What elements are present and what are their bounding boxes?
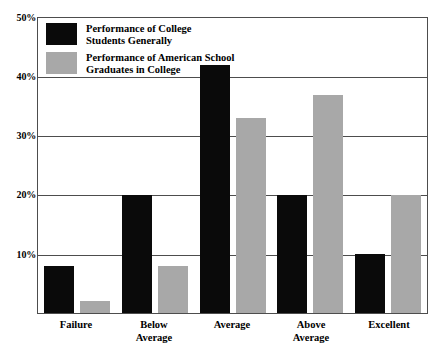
x-axis-label-below-average: Below Average	[115, 318, 193, 344]
bar-black-3	[277, 195, 307, 313]
y-axis: 50% 40% 30% 20% 10%	[0, 0, 36, 354]
legend-item-college-students: Performance of College Students Generall…	[46, 23, 296, 46]
legend-swatch-gray	[46, 52, 77, 74]
x-axis-label-failure: Failure	[37, 318, 115, 331]
bar-black-1	[122, 195, 152, 313]
bar-gray-2	[236, 118, 266, 313]
y-axis-tick-40: 40%	[2, 72, 36, 82]
legend-swatch-black	[46, 23, 77, 45]
y-axis-tick-10: 10%	[2, 250, 36, 260]
y-axis-tick-20: 20%	[2, 190, 36, 200]
x-axis-label-average: Average	[193, 318, 271, 331]
plot-area: Performance of College Students Generall…	[37, 17, 428, 314]
bar-black-2	[200, 65, 230, 313]
bar-gray-0	[80, 301, 110, 313]
bar-black-4	[355, 254, 385, 313]
legend-label-black: Performance of College Students Generall…	[86, 23, 192, 46]
x-axis-label-excellent: Excellent	[350, 318, 428, 331]
y-axis-tick-50: 50%	[2, 13, 36, 23]
y-axis-tick-30: 30%	[2, 131, 36, 141]
legend: Performance of College Students Generall…	[46, 23, 296, 81]
legend-item-american-school-graduates: Performance of American School Graduates…	[46, 52, 296, 75]
bar-black-0	[44, 266, 74, 313]
bar-gray-1	[158, 266, 188, 313]
bar-gray-4	[391, 195, 421, 313]
bar-gray-3	[313, 95, 343, 313]
legend-label-gray: Performance of American School Graduates…	[86, 52, 234, 75]
x-axis-label-above-average: Above Average	[272, 318, 350, 344]
x-axis: Failure Below Average Average Above Aver…	[37, 318, 428, 352]
bar-chart: 50% 40% 30% 20% 10% Performance of Colle…	[0, 0, 439, 354]
